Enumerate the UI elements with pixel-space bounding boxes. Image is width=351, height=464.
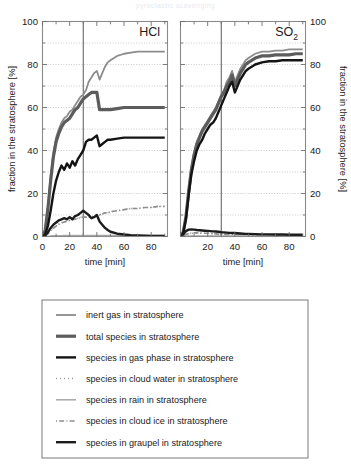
legend-label-5: species in cloud ice in stratosphere: [86, 416, 228, 426]
series-line-species-in-gas-phase-in-stratosphere: [181, 60, 303, 236]
ytick-label-left: 80: [27, 59, 38, 70]
ytick-label-right: 0: [310, 231, 315, 242]
legend-label-6: species in graupel in stratosphere: [86, 438, 222, 448]
ytick-label-left: 40: [27, 145, 38, 156]
series-group: [43, 52, 165, 237]
ytick-label-right: 100: [310, 16, 326, 27]
ytick-label-right: 80: [310, 59, 321, 70]
figure-container: pyroclastic scavenging 020406080time [mi…: [0, 0, 351, 464]
chart-svg: 020406080time [min]HCl20406080time [min]…: [0, 0, 351, 464]
ytick-label-right: 20: [310, 188, 321, 199]
xtick-label: 20: [202, 241, 213, 252]
xtick-label: 0: [40, 241, 45, 252]
ytick-label-left: 60: [27, 102, 38, 113]
series-line-species-in-cloud-ice-in-stratosphere: [43, 206, 165, 236]
ytick-label-right: 60: [310, 102, 321, 113]
xtick-label: 60: [119, 241, 130, 252]
series-line-species-in-graupel-in-stratosphere: [43, 211, 165, 237]
xtick-label: 20: [64, 241, 75, 252]
xtick-label: 80: [146, 241, 157, 252]
legend-label-1: total species in stratosphere: [86, 332, 199, 342]
ytick-label-right: 40: [310, 145, 321, 156]
figure-faint-title: pyroclastic scavenging: [0, 0, 351, 12]
xtick-label: 40: [92, 241, 103, 252]
legend-label-2: species in gas phase in stratosphere: [86, 353, 234, 363]
legend-label-3: species in cloud water in stratosphere: [86, 374, 238, 384]
legend-label-0: inert gas in stratosphere: [86, 310, 184, 320]
series-line-species-in-cloud-water-in-stratosphere: [43, 206, 165, 236]
y-axis-label-right: fraction in the stratosphere [%]: [338, 66, 348, 192]
y-axis-label-left: fraction in the stratosphere [%]: [7, 66, 17, 192]
panel-title-subscript: 2: [293, 32, 298, 42]
panel-HCl: 020406080time [min]HCl: [40, 22, 168, 267]
xtick-label: 40: [230, 241, 241, 252]
legend-label-4: species in rain in stratosphere: [86, 395, 207, 405]
xtick-label: 80: [284, 241, 295, 252]
ytick-label-left: 20: [27, 188, 38, 199]
ytick-label-left: 0: [33, 231, 38, 242]
x-axis-label: time [min]: [223, 257, 263, 267]
series-group: [181, 49, 303, 236]
xtick-label: 60: [257, 241, 268, 252]
panel-title-HCl: HCl: [139, 25, 160, 39]
x-axis-label: time [min]: [85, 257, 125, 267]
panel-title-SO2: SO2: [275, 25, 298, 42]
ytick-label-left: 100: [22, 16, 38, 27]
panel-SO2: 20406080time [min]SO2: [181, 22, 306, 267]
